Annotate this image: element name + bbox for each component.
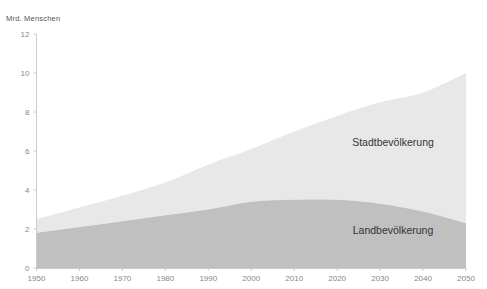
y-axis-ticks: 024681012	[21, 30, 37, 273]
y-tick-label: 10	[21, 69, 30, 78]
x-tick-label: 1950	[28, 274, 46, 283]
x-tick-label: 1980	[156, 274, 174, 283]
x-tick-label: 2000	[242, 274, 260, 283]
series-layer	[37, 73, 467, 268]
y-tick-label: 0	[25, 264, 30, 273]
x-tick-label: 2030	[371, 274, 389, 283]
y-tick-label: 4	[25, 186, 30, 195]
series-label-stadtbevoelkerung: Stadtbevölkerung	[352, 136, 434, 148]
x-tick-label: 2050	[457, 274, 475, 283]
x-tick-label: 1970	[114, 274, 132, 283]
x-tick-label: 2010	[285, 274, 303, 283]
x-axis-ticks: 1950196019701980199020002010202020302040…	[28, 268, 476, 283]
y-tick-label: 8	[25, 108, 30, 117]
series-label-landbevoelkerung: Landbevölkerung	[353, 224, 434, 236]
x-tick-label: 1960	[71, 274, 89, 283]
y-tick-label: 6	[25, 147, 30, 156]
population-area-chart: Mrd. Menschen 024681012 1950196019701980…	[0, 0, 487, 289]
y-tick-label: 12	[21, 30, 30, 39]
x-tick-label: 1990	[199, 274, 217, 283]
chart-canvas: 024681012 195019601970198019902000201020…	[0, 0, 487, 289]
x-tick-label: 2020	[328, 274, 346, 283]
y-tick-label: 2	[25, 225, 30, 234]
x-tick-label: 2040	[414, 274, 432, 283]
